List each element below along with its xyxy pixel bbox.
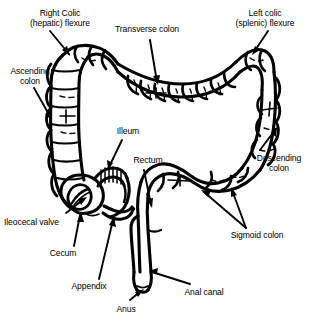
label-ascending-colon: Ascending colon	[3, 66, 57, 86]
label-descending-colon: Descending colon	[250, 153, 308, 173]
rectum-shape	[131, 182, 161, 272]
label-right-colic-flexure: Right Colic (hepatic) flexure	[12, 8, 108, 28]
label-rectum: Rectum	[128, 155, 168, 165]
left-colic-flexure-shape	[236, 50, 274, 91]
label-transverse-colon: Transverse colon	[108, 24, 186, 34]
right-colic-flexure-shape	[63, 45, 118, 72]
sigmoid-colon-shape	[141, 164, 260, 194]
label-ileocecal-valve: Ileocecal valve	[4, 217, 76, 227]
label-anal-canal: Anal canal	[176, 287, 232, 297]
label-sigmoid-colon: Sigmoid colon	[222, 230, 292, 240]
label-appendix: Appendix	[64, 281, 114, 291]
label-left-colic-flexure: Left colic (splenic) flexure	[222, 8, 308, 28]
cecum-ileum-valve-appendix-shape	[61, 167, 134, 219]
transverse-colon-shape	[118, 62, 240, 102]
label-cecum: Cecum	[44, 248, 82, 258]
label-anus: Anus	[110, 304, 142, 314]
anal-canal-shape	[134, 272, 152, 292]
large-intestine-diagram: Right Colic (hepatic) flexure Transverse…	[0, 0, 311, 323]
label-illeum: Illeum	[110, 126, 146, 136]
